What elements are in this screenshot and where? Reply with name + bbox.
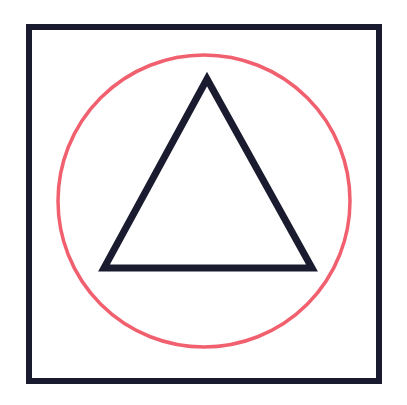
figure-svg — [0, 0, 407, 405]
geometric-figure-canvas — [0, 0, 407, 405]
canvas-background — [0, 0, 407, 405]
